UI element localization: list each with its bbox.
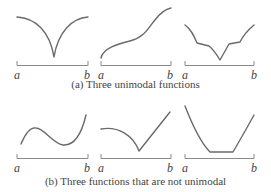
caption-a: (a) Three unimodal functions — [0, 78, 271, 90]
caption-b: (b) Three functions that are not unimoda… — [0, 175, 271, 187]
label-a-start: a — [14, 162, 20, 174]
curve-b1 — [21, 115, 86, 145]
label-a-start: a — [182, 162, 188, 174]
axis-a2 — [101, 61, 171, 66]
label-a-start: a — [98, 162, 104, 174]
diagram-canvas — [0, 0, 271, 192]
axis-a3 — [185, 61, 254, 66]
label-b-end: b — [84, 162, 90, 174]
curve-b2 — [101, 112, 170, 151]
curve-a2 — [101, 8, 171, 58]
label-b-end: b — [251, 162, 257, 174]
axis-b1 — [17, 154, 88, 159]
curve-b3 — [185, 106, 254, 152]
axis-a1 — [17, 61, 88, 66]
axis-b3 — [185, 154, 254, 159]
axis-b2 — [101, 154, 171, 159]
curve-a3 — [185, 25, 254, 60]
label-b-end: b — [167, 162, 173, 174]
curve-a1 — [17, 17, 88, 57]
